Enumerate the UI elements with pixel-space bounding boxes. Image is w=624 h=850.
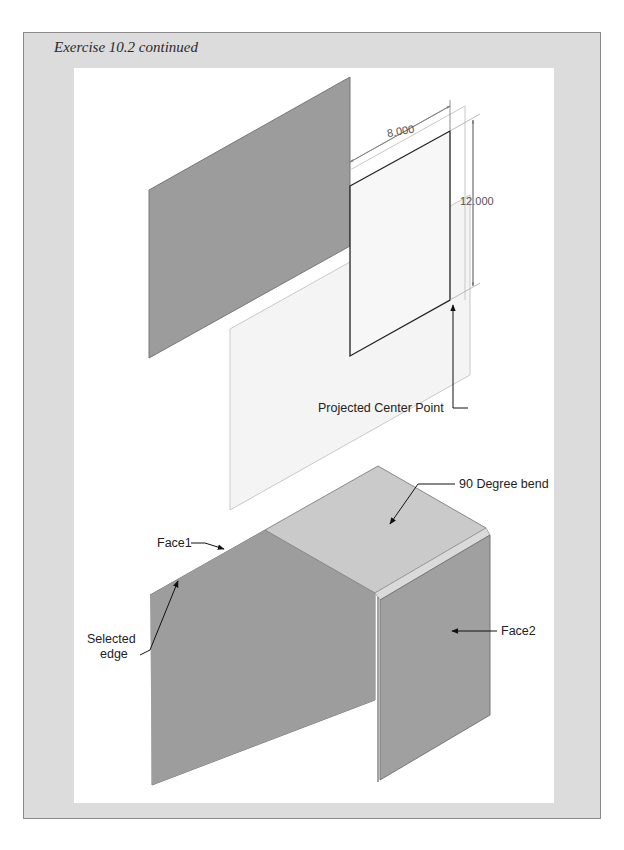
callout-selected-edge-line1: Selected — [87, 632, 136, 646]
callout-face2: Face2 — [501, 624, 536, 638]
callout-90-degree-bend: 90 Degree bend — [459, 477, 549, 491]
callout-projected-center-point: Projected Center Point — [318, 401, 444, 415]
dimension-height: 12.000 — [460, 195, 494, 207]
bottom-figure: 90 Degree bend Face1 Selected edge Face2 — [87, 466, 549, 785]
callout-face1: Face1 — [157, 536, 192, 550]
callout-selected-edge-line2: edge — [100, 647, 128, 661]
figure-drawings: 8.000 12.000 Projected Center Point 90 D… — [0, 0, 624, 850]
top-figure: 8.000 12.000 Projected Center Point — [149, 77, 494, 510]
